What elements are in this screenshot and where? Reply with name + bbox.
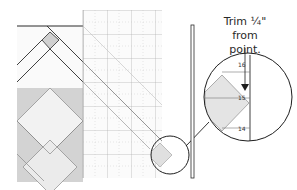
quilting-ruler xyxy=(83,10,162,178)
magnifier-label-15: 15 xyxy=(238,94,246,101)
caption-line-2: from point. xyxy=(215,29,275,57)
magnifier-label-16: 16 xyxy=(238,61,246,68)
triangle-unit xyxy=(17,26,83,88)
caption-line-1: Trim ¼" xyxy=(215,15,275,29)
trim-caption: Trim ¼" from point. xyxy=(215,15,275,57)
magnifier-label-14: 14 xyxy=(238,125,246,132)
quilt-block xyxy=(17,88,83,190)
magnifier-circle xyxy=(204,48,292,145)
rotary-edge xyxy=(191,25,194,178)
